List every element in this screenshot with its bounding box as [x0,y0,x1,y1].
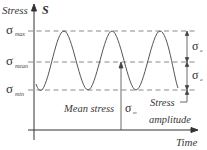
svg-text:a: a [200,48,203,53]
x-axis-label: Time [176,136,198,148]
amplitude-symbol-lower: σ a [192,68,203,82]
level-label-max: σ max [6,22,25,37]
svg-text:max: max [15,31,25,37]
amplitude-dimension [180,31,189,102]
up-arrow-icon [119,62,123,68]
stress-time-diagram: Stress S σ max σ mean σ min σ a σ a Mean… [0,0,207,150]
reference-lines [28,31,196,90]
y-axis-label: Stress [2,4,28,16]
svg-text:a: a [200,77,203,82]
svg-text:σ: σ [192,68,199,82]
mean-stress-label: Mean stress [63,103,114,114]
amplitude-label-line2: amplitude [149,114,191,125]
svg-text:min: min [15,91,24,97]
x-axis-arrow-icon [191,128,198,133]
svg-text:σ: σ [6,53,13,68]
svg-text:m: m [133,110,137,115]
svg-text:σ: σ [125,101,132,115]
y-axis-symbol: S [42,3,49,17]
svg-text:mean: mean [15,63,28,69]
mean-stress-arrow [119,62,123,130]
amplitude-symbol-upper: σ a [192,39,203,53]
level-label-min: σ min [6,81,24,97]
svg-text:σ: σ [6,22,13,37]
mean-stress-symbol: σ m [125,101,137,115]
stress-curve [36,31,178,90]
level-label-mean: σ mean [6,53,28,69]
y-axis-arrow-icon [32,4,37,11]
svg-text:σ: σ [192,39,199,53]
amplitude-label-line1: Stress [150,97,175,108]
svg-text:σ: σ [6,81,13,96]
